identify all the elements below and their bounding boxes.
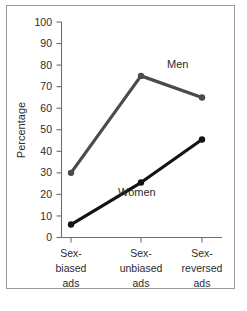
y-tick-label-30: 30 <box>40 166 52 178</box>
series-line-men <box>71 76 202 173</box>
x-category-2-line-0: Sex- <box>191 247 213 259</box>
y-tick-label-90: 90 <box>40 37 52 49</box>
y-axis-title: Percentage <box>15 102 27 158</box>
x-category-0-line-0: Sex- <box>60 247 82 259</box>
y-tick-label-60: 60 <box>40 102 52 114</box>
series-layer <box>68 73 205 228</box>
data-point-men-2 <box>199 94 205 100</box>
x-category-1-line-0: Sex- <box>130 247 152 259</box>
y-tick-label-80: 80 <box>40 59 52 71</box>
data-point-women-0 <box>68 221 74 227</box>
y-tick-label-40: 40 <box>40 145 52 157</box>
x-category-label-0: Sex- biased ads <box>56 247 87 289</box>
data-point-women-1 <box>138 179 144 185</box>
x-category-label-2: Sex- reversed ads <box>182 247 223 289</box>
series-men <box>68 73 205 176</box>
x-axis-ticks <box>71 238 202 243</box>
x-category-0-line-2: ads <box>63 277 80 289</box>
line-chart: Percentage 100 90 80 70 60 50 40 30 20 <box>0 0 247 311</box>
x-category-1-line-1: unbiased <box>120 262 163 274</box>
y-tick-label-0: 0 <box>46 231 52 243</box>
data-point-women-2 <box>199 136 205 142</box>
x-category-label-1: Sex- unbiased ads <box>120 247 163 289</box>
figure-root: Percentage 100 90 80 70 60 50 40 30 20 <box>0 0 247 311</box>
x-axis-category-labels: Sex- biased ads Sex- unbiased ads Sex- r… <box>56 247 223 289</box>
y-tick-label-100: 100 <box>34 16 52 28</box>
y-tick-label-70: 70 <box>40 80 52 92</box>
x-category-2-line-2: ads <box>194 277 211 289</box>
series-line-women <box>71 139 202 224</box>
y-tick-label-50: 50 <box>40 123 52 135</box>
series-annotation-men: Men <box>167 58 188 70</box>
data-point-men-1 <box>138 73 144 79</box>
y-tick-label-20: 20 <box>40 188 52 200</box>
x-category-1-line-2: ads <box>133 277 150 289</box>
y-axis-ticks: 100 90 80 70 60 50 40 30 20 10 0 <box>34 16 61 244</box>
series-annotation-women: Women <box>118 186 156 198</box>
x-category-0-line-1: biased <box>56 262 87 274</box>
x-category-2-line-1: reversed <box>182 262 223 274</box>
data-point-men-0 <box>68 170 74 176</box>
y-tick-label-10: 10 <box>40 210 52 222</box>
